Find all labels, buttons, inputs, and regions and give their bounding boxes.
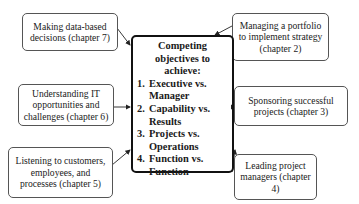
node-label: Sponsoring successful projects (chapter … xyxy=(238,95,344,118)
objective-item: 4. Function vs. Function xyxy=(137,153,228,178)
arrow-listening xyxy=(112,150,130,165)
node-portfolio: Managing a portfolio to implement strate… xyxy=(232,13,329,61)
node-label: Managing a portfolio to implement strate… xyxy=(236,20,325,55)
node-data-decisions: Making data-based decisions (chapter 7) xyxy=(22,13,118,51)
objectives-list: 1. Executive vs. Manager 2. Capability v… xyxy=(137,78,228,179)
node-listening: Listening to customers, employees, and p… xyxy=(8,147,113,198)
node-label: Listening to customers, employees, and p… xyxy=(12,155,109,190)
node-leading: Leading project managers (chapter 4) xyxy=(234,154,317,200)
arrow-data-decisions xyxy=(117,28,130,45)
center-title: Competing objectives to achieve: xyxy=(137,40,228,78)
node-label: Understanding IT opportunities and chall… xyxy=(22,88,110,123)
center-objectives-box: Competing objectives to achieve: 1. Exec… xyxy=(131,35,234,173)
objective-item: 2. Capability vs. Results xyxy=(137,103,228,128)
node-label: Making data-based decisions (chapter 7) xyxy=(26,21,114,44)
node-label: Leading project managers (chapter 4) xyxy=(238,160,313,195)
objective-item: 1. Executive vs. Manager xyxy=(137,78,228,103)
node-it-opportunities: Understanding IT opportunities and chall… xyxy=(18,84,114,126)
objective-item: 3. Projects vs. Operations xyxy=(137,128,228,153)
node-sponsoring: Sponsoring successful projects (chapter … xyxy=(234,86,348,126)
arrow-portfolio xyxy=(215,26,232,35)
